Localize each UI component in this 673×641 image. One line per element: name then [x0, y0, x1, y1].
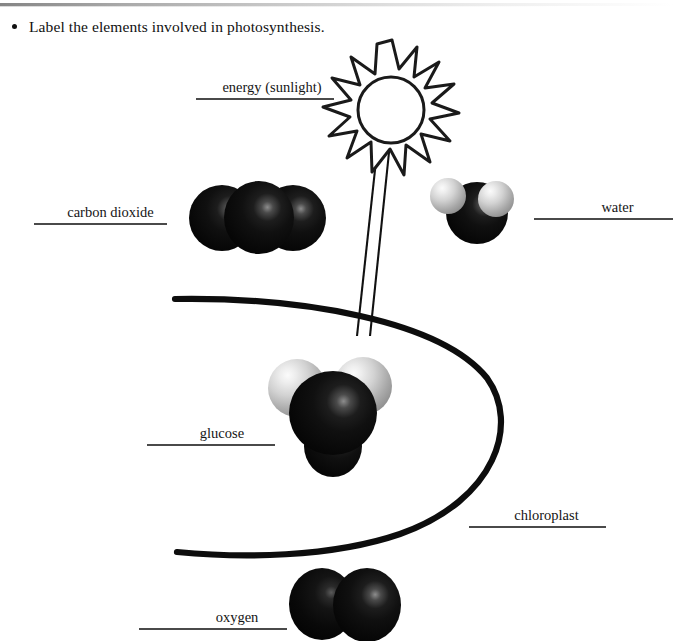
blank-energy-sunlight-rule [196, 98, 334, 99]
atom-hydrogen-left [430, 178, 466, 214]
blank-oxygen[interactable]: oxygen [139, 610, 287, 630]
blank-chloroplast-label: chloroplast [469, 508, 606, 523]
molecule-glucose [268, 353, 400, 481]
worksheet-page: Label the elements involved in photosynt… [0, 0, 673, 641]
atom-carbon-main [289, 371, 377, 455]
photosynthesis-diagram [0, 0, 673, 641]
blank-carbon-dioxide-rule [34, 223, 167, 224]
blank-glucose[interactable]: glucose [147, 426, 275, 446]
sun-icon [323, 40, 459, 175]
blank-energy-sunlight-label: energy (sunlight) [196, 80, 334, 95]
molecule-water [430, 178, 526, 248]
blank-oxygen-rule [139, 628, 287, 629]
blank-water-rule [534, 218, 673, 219]
blank-energy-sunlight[interactable]: energy (sunlight) [196, 80, 334, 100]
blank-water[interactable]: water [534, 200, 673, 220]
atom-hydrogen-right [478, 181, 514, 217]
blank-carbon-dioxide-label: carbon dioxide [34, 205, 167, 220]
blank-chloroplast-rule [469, 526, 606, 527]
blank-carbon-dioxide[interactable]: carbon dioxide [34, 205, 167, 225]
atom-carbon-center [224, 181, 294, 254]
blank-glucose-label: glucose [147, 426, 275, 441]
blank-glucose-rule [147, 444, 275, 445]
blank-oxygen-label: oxygen [139, 610, 287, 625]
atom-oxygen-right [333, 568, 401, 641]
blank-water-label: water [534, 200, 673, 215]
molecule-oxygen [289, 568, 401, 641]
molecule-carbon-dioxide [189, 181, 325, 256]
blank-chloroplast[interactable]: chloroplast [469, 508, 606, 528]
